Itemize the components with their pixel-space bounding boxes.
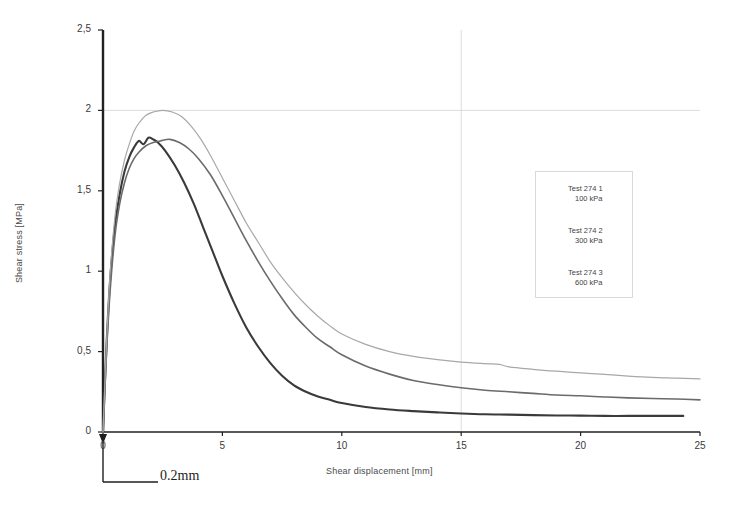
legend-label: Test 274 2 <box>568 226 603 236</box>
x-tick-label: 10 <box>329 440 355 451</box>
legend-sublabel: 600 kPa <box>575 278 603 288</box>
y-tick-label: 2,5 <box>65 23 91 34</box>
x-tick-label: 0 <box>90 440 116 451</box>
y-tick-label: 0,5 <box>65 345 91 356</box>
legend-sublabel: 100 kPa <box>575 194 603 204</box>
y-tick-label: 1,5 <box>65 184 91 195</box>
legend-label: Test 274 3 <box>568 268 603 278</box>
legend-sublabel: 300 kPa <box>575 236 603 246</box>
scale-marker-label: 0.2mm <box>160 468 199 484</box>
x-tick-label: 25 <box>687 440 713 451</box>
y-axis-label: Shear stress [MPa] <box>14 178 24 308</box>
y-tick-label: 1 <box>65 264 91 275</box>
x-tick-label: 15 <box>448 440 474 451</box>
x-tick-label: 5 <box>209 440 235 451</box>
y-tick-label: 0 <box>65 425 91 436</box>
x-tick-label: 20 <box>568 440 594 451</box>
legend-label: Test 274 1 <box>568 184 603 194</box>
x-axis-label: Shear displacement [mm] <box>326 466 433 476</box>
chart-legend: Test 274 1 100 kPa Test 274 2 300 kPa Te… <box>535 171 633 298</box>
chart-figure: Shear stress [MPa] Shear displacement [m… <box>0 0 735 509</box>
y-tick-label: 2 <box>65 103 91 114</box>
